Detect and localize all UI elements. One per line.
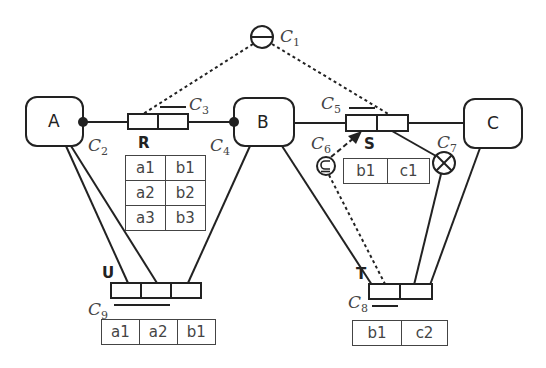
table-cell: a2	[126, 181, 166, 206]
relation-R-population-table: a1 b1 a2 b2 a3 b3	[125, 155, 206, 231]
table-cell: a2	[139, 320, 177, 345]
table-row: a3 b3	[126, 206, 206, 231]
constraint-C8-label: C8	[348, 292, 368, 315]
constraint-C6-label: C6	[311, 133, 331, 156]
table-cell: a1	[102, 320, 140, 345]
table-row: b1 c1	[344, 159, 430, 184]
relation-R-label: R	[138, 134, 150, 152]
entity-C-label: C	[487, 113, 499, 133]
relation-T-label: T	[356, 265, 366, 283]
mandatory-dot-C4	[229, 117, 239, 127]
relation-S-label: S	[364, 135, 375, 153]
exclusion-constraint-icon[interactable]	[251, 26, 273, 48]
table-row: b1 c2	[353, 321, 448, 346]
table-cell: a1	[126, 156, 166, 181]
subset-constraint-icon[interactable]	[317, 157, 335, 175]
table-cell: b2	[165, 181, 205, 206]
entity-A-label: A	[48, 111, 60, 131]
constraint-C5-label: C5	[321, 93, 341, 116]
table-row: a2 b2	[126, 181, 206, 206]
constraint-C7-label: C7	[437, 132, 457, 155]
connector-S-xor	[392, 131, 436, 156]
subset-arrow-line	[331, 137, 355, 157]
table-cell: a3	[126, 206, 166, 231]
relation-U-box[interactable]	[111, 283, 201, 298]
relation-U-population-table: a1 a2 b1	[101, 319, 216, 345]
table-cell: c1	[388, 159, 430, 184]
table-cell: b3	[165, 206, 205, 231]
table-cell: b1	[177, 320, 215, 345]
orm-diagram-canvas	[0, 0, 546, 368]
connector-A-U-1	[66, 146, 128, 283]
table-cell: c2	[402, 321, 448, 346]
table-row: a1 b1	[126, 156, 206, 181]
table-cell: b1	[344, 159, 388, 184]
table-cell: b1	[165, 156, 205, 181]
constraint-C3-label: C3	[189, 94, 209, 117]
entity-B-label: B	[257, 112, 269, 132]
table-row: a1 a2 b1	[102, 320, 216, 345]
table-cell: b1	[353, 321, 402, 346]
constraint-C1-label: C1	[280, 26, 300, 49]
constraint-C4-label: C4	[210, 135, 230, 158]
relation-S-population-table: b1 c1	[343, 158, 430, 184]
xor-constraint-icon[interactable]	[433, 152, 455, 174]
constraint-C2-label: C2	[88, 135, 108, 158]
relation-U-label: U	[102, 264, 114, 282]
relation-T-population-table: b1 c2	[352, 320, 448, 346]
mandatory-dot-C2	[78, 117, 88, 127]
